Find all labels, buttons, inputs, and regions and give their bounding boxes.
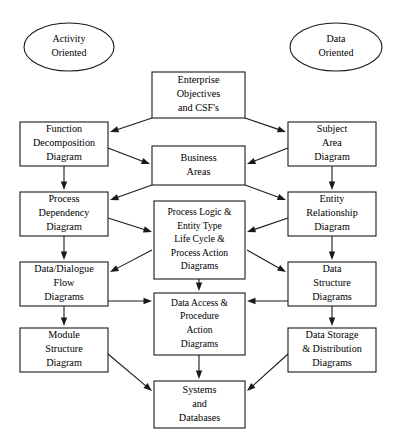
node-label-line: Diagrams: [312, 291, 352, 302]
diagram-svg: EnterpriseObjectivesand CSF'sFunctionDec…: [0, 0, 397, 441]
node-label-line: Areas: [187, 166, 211, 177]
edge-process-logic-to-data-dialogue-flow: [110, 250, 152, 272]
node-label-line: Enterprise: [178, 74, 220, 85]
edge-business-areas-to-entity-relationship: [245, 185, 286, 200]
node-label-line: Diagrams: [44, 291, 84, 302]
node-label-line: Databases: [179, 412, 220, 423]
node-label-line: Oriented: [52, 47, 87, 58]
ellipse-data-oriented[interactable]: DataOriented: [290, 23, 382, 71]
node-label-line: Diagram: [46, 221, 82, 232]
node-label-line: Entity: [320, 193, 346, 204]
edge-data-access-procedure-to-systems-databases: [196, 355, 202, 379]
box-data-storage-distribution[interactable]: Data Storage& DistributionDiagrams: [288, 328, 376, 372]
node-label-line: and: [192, 398, 207, 409]
node-label-line: Business: [180, 152, 216, 163]
node-label-line: Process Action: [171, 247, 228, 258]
node-label-line: Process Logic &: [168, 206, 232, 217]
node-label-line: Process: [48, 193, 79, 204]
node-label-line: Procedure: [180, 310, 219, 321]
node-label-line: and CSF's: [178, 102, 219, 113]
box-systems-databases[interactable]: SystemsandDatabases: [154, 381, 245, 428]
node-label-line: Data: [322, 263, 342, 274]
node-label-line: Flow: [54, 277, 76, 288]
node-label-line: Decomposition: [33, 137, 95, 148]
edge-data-dialogue-flow-to-data-access-procedure: [108, 298, 152, 304]
box-data-dialogue-flow[interactable]: Data/DialogueFlowDiagrams: [20, 262, 108, 306]
node-label-line: Subject: [317, 123, 348, 134]
edge-function-decomposition-to-business-areas: [108, 148, 150, 164]
box-subject-area[interactable]: SubjectAreaDiagram: [288, 122, 376, 166]
node-label-line: Area: [322, 137, 342, 148]
node-label-line: Diagram: [46, 151, 82, 162]
box-business-areas[interactable]: BusinessAreas: [152, 146, 245, 185]
node-label-line: Data: [327, 33, 346, 44]
box-process-dependency[interactable]: ProcessDependencyDiagram: [20, 192, 108, 236]
node-label-line: Module: [48, 329, 80, 340]
box-entity-relationship[interactable]: EntityRelationshipDiagram: [288, 192, 376, 236]
node-label-line: Activity: [53, 33, 86, 44]
node-label-line: Diagrams: [181, 260, 219, 271]
node-label-line: Data Storage: [306, 329, 359, 340]
node-label-line: Objectives: [177, 88, 221, 99]
edge-subject-area-to-business-areas: [247, 148, 288, 164]
diagram-canvas: EnterpriseObjectivesand CSF'sFunctionDec…: [0, 0, 397, 441]
node-label-line: Diagram: [314, 151, 350, 162]
node-label-line: Diagrams: [312, 357, 352, 368]
node-label-line: Entity Type: [177, 220, 222, 231]
node-label-line: Action: [186, 324, 212, 335]
edge-module-structure-to-systems-databases: [108, 354, 152, 391]
edge-process-dependency-to-process-logic: [108, 218, 152, 232]
edge-enterprise-objectives-to-subject-area: [245, 118, 286, 132]
ellipse-activity-oriented[interactable]: ActivityOriented: [24, 23, 114, 71]
node-label-line: Relationship: [306, 207, 358, 218]
node-label-line: Oriented: [319, 47, 354, 58]
node-label-line: Function: [46, 123, 82, 134]
box-module-structure[interactable]: ModuleStructureDiagram: [20, 328, 108, 372]
node-label-line: Data/Dialogue: [34, 263, 94, 274]
edge-process-logic-to-data-structure: [247, 250, 286, 272]
edge-data-storage-distribution-to-systems-databases: [247, 354, 288, 391]
edge-data-structure-to-data-access-procedure: [247, 298, 288, 304]
edge-business-areas-to-process-dependency: [110, 185, 152, 200]
edge-process-dependency-to-data-dialogue-flow: [61, 236, 67, 260]
edge-data-dialogue-flow-to-module-structure: [61, 306, 67, 326]
edge-data-structure-to-data-storage-distribution: [329, 306, 335, 326]
node-label-line: Diagrams: [181, 338, 219, 349]
edge-process-logic-to-data-access-procedure: [196, 279, 202, 291]
edge-entity-relationship-to-data-structure: [329, 236, 335, 260]
node-label-line: Data Access &: [171, 297, 229, 308]
node-label-line: Diagram: [46, 357, 82, 368]
box-function-decomposition[interactable]: FunctionDecompositionDiagram: [20, 122, 108, 166]
edge-subject-area-to-entity-relationship: [329, 166, 335, 190]
node-label-line: Systems: [183, 384, 217, 395]
node-label-line: Dependency: [39, 207, 91, 218]
edge-function-decomposition-to-process-dependency: [61, 166, 67, 190]
edge-entity-relationship-to-process-logic: [247, 218, 288, 232]
edge-enterprise-objectives-to-function-decomposition: [110, 118, 152, 132]
node-label-line: & Distribution: [302, 343, 362, 354]
box-enterprise-objectives[interactable]: EnterpriseObjectivesand CSF's: [152, 72, 245, 118]
box-data-access-procedure[interactable]: Data Access &ProcedureActionDiagrams: [154, 293, 245, 355]
nodes-layer: EnterpriseObjectivesand CSF'sFunctionDec…: [20, 23, 382, 428]
node-label-line: Diagram: [314, 221, 350, 232]
node-label-line: Life Cycle &: [174, 233, 225, 244]
box-process-logic[interactable]: Process Logic &Entity TypeLife Cycle &Pr…: [154, 201, 245, 279]
box-data-structure[interactable]: DataStructureDiagrams: [288, 262, 376, 306]
node-label-line: Structure: [45, 343, 83, 354]
node-label-line: Structure: [313, 277, 351, 288]
